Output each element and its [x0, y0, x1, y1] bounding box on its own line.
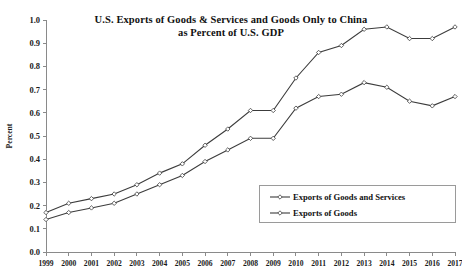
x-tick-label: 2013: [357, 259, 372, 268]
x-tick-label: 2012: [334, 259, 349, 268]
data-point-marker: [89, 206, 93, 210]
data-point-marker: [248, 136, 252, 140]
data-point-marker: [407, 36, 411, 40]
data-point-marker: [89, 196, 93, 200]
y-tick-label: 0.7: [29, 85, 40, 95]
data-point-marker: [135, 183, 139, 187]
data-point-marker: [157, 171, 161, 175]
legend-box: [259, 185, 455, 222]
y-tick-label: 1.0: [29, 15, 40, 25]
x-tick-label: 2001: [84, 259, 99, 268]
data-point-marker: [44, 217, 48, 221]
data-point-marker: [339, 92, 343, 96]
x-tick-label: 2006: [197, 259, 212, 268]
x-tick-label: 2017: [447, 259, 462, 268]
y-tick-label: 0.6: [29, 108, 40, 118]
data-point-marker: [226, 148, 230, 152]
x-axis: 1999200020012002200320042005200620072008…: [38, 252, 462, 268]
data-point-marker: [44, 210, 48, 214]
y-tick-label: 0.1: [29, 224, 40, 234]
x-tick-label: 2003: [129, 259, 144, 268]
chart-plot-area: 0.00.10.20.30.40.50.60.70.80.91.0 199920…: [0, 0, 462, 278]
y-tick-label: 0.4: [29, 154, 40, 164]
y-tick-label: 0.5: [29, 131, 40, 141]
y-axis-title: Percent: [5, 123, 14, 148]
x-tick-label: 2015: [402, 259, 417, 268]
x-tick-label: 2000: [61, 259, 76, 268]
chart-legend: Exports of Goods and ServicesExports of …: [259, 185, 455, 222]
data-point-marker: [430, 104, 434, 108]
data-point-marker: [67, 210, 71, 214]
data-point-marker: [112, 192, 116, 196]
x-tick-label: 2007: [220, 259, 235, 268]
data-point-marker: [112, 201, 116, 205]
y-tick-label: 0.0: [29, 247, 40, 257]
legend-label: Exports of Goods: [293, 208, 358, 218]
x-tick-label: 2016: [425, 259, 440, 268]
x-tick-label: 2014: [379, 259, 394, 268]
y-tick-label: 0.3: [29, 177, 40, 187]
data-point-marker: [157, 183, 161, 187]
x-tick-label: 2011: [311, 259, 326, 268]
data-point-marker: [430, 36, 434, 40]
x-tick-label: 2009: [266, 259, 281, 268]
data-point-marker: [316, 94, 320, 98]
x-tick-label: 2010: [288, 259, 303, 268]
data-point-marker: [67, 201, 71, 205]
y-tick-label: 0.2: [29, 201, 40, 211]
data-point-marker: [135, 192, 139, 196]
y-axis: 0.00.10.20.30.40.50.60.70.80.91.0: [29, 15, 46, 257]
x-tick-label: 1999: [38, 259, 53, 268]
legend-label: Exports of Goods and Services: [293, 192, 406, 202]
x-tick-label: 2004: [152, 259, 167, 268]
data-point-marker: [453, 25, 457, 29]
data-point-marker: [453, 94, 457, 98]
y-tick-label: 0.9: [29, 38, 40, 48]
x-tick-label: 2002: [107, 259, 122, 268]
x-tick-label: 2005: [175, 259, 190, 268]
data-point-marker: [385, 25, 389, 29]
data-point-marker: [362, 80, 366, 84]
y-tick-label: 0.8: [29, 61, 40, 71]
x-tick-label: 2008: [243, 259, 258, 268]
chart-container: U.S. Exports of Goods & Services and Goo…: [0, 0, 462, 278]
